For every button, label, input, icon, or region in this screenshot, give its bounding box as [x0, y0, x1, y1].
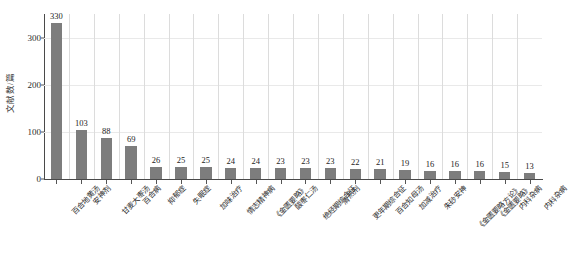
bar-value-label: 69	[111, 135, 151, 144]
bar-value-label: 88	[86, 127, 126, 136]
plot-area: 3301038869262525242423232322211916161615…	[44, 14, 542, 179]
bar[interactable]: 88	[101, 14, 112, 179]
bar-rect	[51, 23, 62, 179]
bar-rect	[399, 170, 410, 179]
vertical-gridline	[467, 14, 468, 179]
vertical-gridline	[517, 14, 518, 179]
bar-rect	[325, 168, 336, 179]
x-tick-mark	[56, 180, 57, 184]
x-axis-category-label: 内科杂病	[542, 185, 568, 211]
y-tick-label: 100	[15, 127, 41, 136]
bar[interactable]: 25	[175, 14, 186, 179]
bar-rect	[200, 167, 211, 179]
bar[interactable]: 69	[125, 14, 136, 179]
vertical-gridline	[293, 14, 294, 179]
x-axis-category-label: 加味治疗	[218, 185, 244, 211]
vertical-gridline	[119, 14, 120, 179]
vertical-gridline	[368, 14, 369, 179]
x-tick-mark	[380, 180, 381, 184]
x-tick-mark	[81, 180, 82, 184]
bar-rect	[424, 171, 435, 179]
x-tick-mark	[480, 180, 481, 184]
x-tick-mark	[231, 180, 232, 184]
vertical-gridline	[393, 14, 394, 179]
vertical-gridline	[318, 14, 319, 179]
x-axis-category-label: 情志精神病	[245, 185, 276, 216]
bar[interactable]: 23	[300, 14, 311, 179]
bar[interactable]: 103	[76, 14, 87, 179]
vertical-gridline	[69, 14, 70, 179]
bar-value-label: 13	[510, 162, 550, 171]
bar-rect	[350, 169, 361, 179]
vertical-gridline	[343, 14, 344, 179]
bar[interactable]: 24	[225, 14, 236, 179]
x-tick-mark	[256, 180, 257, 184]
bar-rect	[76, 130, 87, 179]
bar-rect	[150, 167, 161, 179]
vertical-gridline	[193, 14, 194, 179]
bar[interactable]: 330	[51, 14, 62, 179]
bar-rect	[449, 171, 460, 179]
bar[interactable]: 16	[449, 14, 460, 179]
y-tick-label: 0	[15, 175, 41, 184]
x-axis-line	[44, 179, 543, 180]
x-axis-labels: 百合地黄汤安神剂甘麦大枣汤百合病抑郁症失眠症加味治疗情志精神病《金匮要略》酸枣仁…	[44, 185, 543, 257]
x-tick-mark	[330, 180, 331, 184]
vertical-gridline	[94, 14, 95, 179]
x-tick-mark	[530, 180, 531, 184]
vertical-gridline	[144, 14, 145, 179]
y-tick-label: 200	[15, 80, 41, 89]
x-tick-mark	[455, 180, 456, 184]
vertical-gridline	[243, 14, 244, 179]
bar[interactable]: 23	[325, 14, 336, 179]
bar[interactable]: 19	[399, 14, 410, 179]
x-tick-mark	[181, 180, 182, 184]
x-tick-mark	[106, 180, 107, 184]
x-tick-mark	[505, 180, 506, 184]
bar-rect	[300, 168, 311, 179]
bar-value-label: 330	[36, 12, 76, 21]
bar[interactable]: 23	[275, 14, 286, 179]
bar[interactable]: 16	[474, 14, 485, 179]
x-axis-category-label: 抑郁症	[166, 185, 187, 206]
x-tick-mark	[430, 180, 431, 184]
bar-rect	[250, 168, 261, 179]
vertical-gridline	[268, 14, 269, 179]
x-tick-mark	[405, 180, 406, 184]
bar-rect	[374, 169, 385, 179]
x-tick-mark	[156, 180, 157, 184]
bar[interactable]: 22	[350, 14, 361, 179]
y-axis-ticks: 0100200300	[12, 0, 41, 257]
vertical-gridline	[492, 14, 493, 179]
x-tick-mark	[281, 180, 282, 184]
x-tick-mark	[206, 180, 207, 184]
bar-rect	[175, 167, 186, 179]
bar[interactable]: 24	[250, 14, 261, 179]
vertical-gridline	[218, 14, 219, 179]
x-tick-mark	[305, 180, 306, 184]
bar[interactable]: 15	[499, 14, 510, 179]
y-tick-label: 300	[15, 33, 41, 42]
x-axis-category-label: 失眠症	[191, 185, 212, 206]
bar-rect	[524, 173, 535, 179]
bar-rect	[225, 168, 236, 179]
x-axis-category-label: 清热剂	[341, 185, 362, 206]
x-tick-mark	[355, 180, 356, 184]
bar[interactable]: 13	[524, 14, 535, 179]
vertical-gridline	[418, 14, 419, 179]
bar-rect	[474, 171, 485, 179]
bar[interactable]: 16	[424, 14, 435, 179]
bar[interactable]: 26	[150, 14, 161, 179]
x-axis-category-label: 朱砂安神	[442, 185, 468, 211]
vertical-gridline	[442, 14, 443, 179]
bar-rect	[499, 172, 510, 179]
x-tick-mark	[131, 180, 132, 184]
bar[interactable]: 25	[200, 14, 211, 179]
bar[interactable]: 21	[374, 14, 385, 179]
bar-rect	[275, 168, 286, 179]
vertical-gridline	[169, 14, 170, 179]
